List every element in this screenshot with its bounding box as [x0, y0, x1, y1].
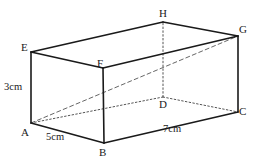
- cuboid-diagram: [0, 0, 260, 161]
- edge-E-F: [31, 52, 103, 68]
- diagonal-edges-group: [31, 36, 238, 123]
- edge-A-B: [31, 123, 104, 143]
- vertex-label-B: B: [99, 147, 107, 158]
- diagonal-A-G: [31, 36, 238, 123]
- edge-F-B: [103, 68, 104, 143]
- measure-label-3cm: 3cm: [4, 82, 22, 93]
- edge-D-C: [163, 97, 238, 112]
- edge-F-G: [103, 36, 238, 68]
- solid-edges-group: [31, 22, 238, 143]
- measure-label-5cm: 5cm: [46, 132, 64, 143]
- vertex-label-D: D: [159, 99, 167, 110]
- hidden-edges-group: [31, 22, 238, 123]
- vertex-label-G: G: [239, 24, 247, 35]
- edge-A-D: [31, 97, 163, 123]
- vertex-label-A: A: [21, 127, 29, 138]
- edge-H-G: [163, 22, 238, 36]
- vertex-label-H: H: [159, 8, 167, 19]
- edge-E-H: [31, 22, 163, 52]
- vertex-label-C: C: [239, 106, 247, 117]
- cuboid-figure: EFHGABDC 3cm5cm7cm: [0, 0, 260, 161]
- vertex-label-E: E: [21, 42, 28, 53]
- vertex-label-F: F: [97, 58, 103, 69]
- measure-label-7cm: 7cm: [163, 124, 181, 135]
